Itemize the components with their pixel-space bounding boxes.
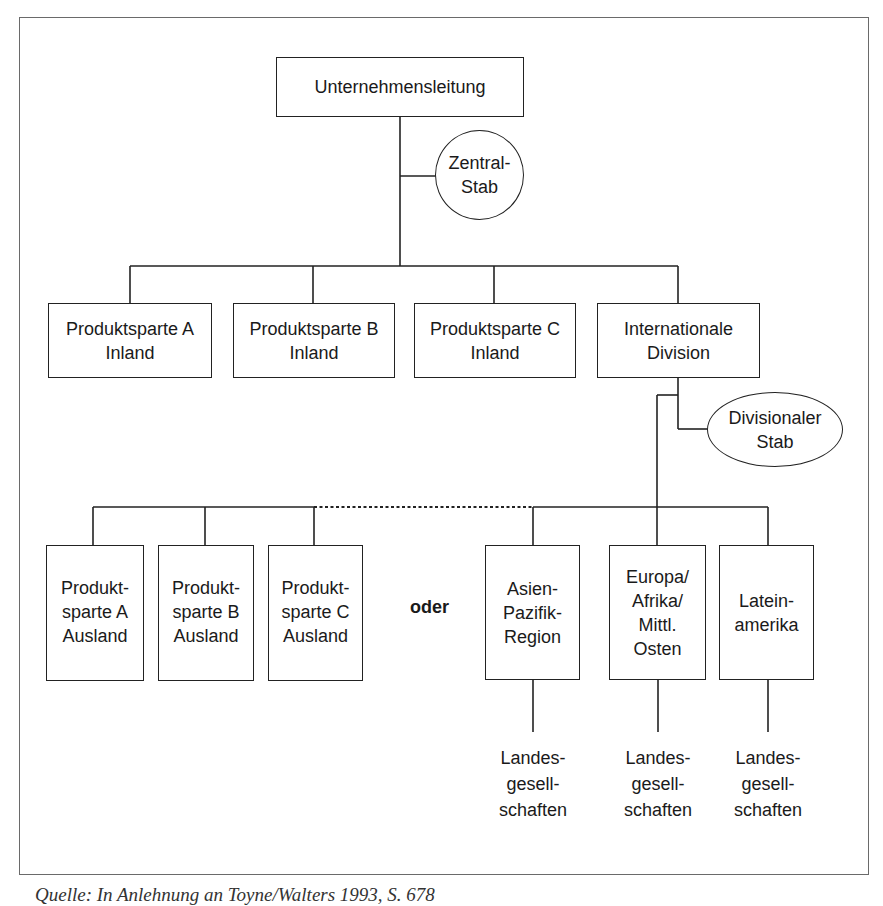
label-line: Landes-: [500, 745, 565, 771]
node-produktsparte-b-ausland: Produkt- sparte B Ausland: [158, 545, 254, 681]
label-line: gesell-: [631, 771, 684, 797]
node-produktsparte-a-ausland: Produkt- sparte A Ausland: [46, 545, 144, 681]
node-label: Region: [504, 625, 561, 649]
staff-label: Divisionaler: [728, 406, 821, 430]
node-produktsparte-c-inland: Produktsparte C Inland: [414, 303, 576, 378]
node-label: sparte A: [62, 600, 128, 624]
node-label: Ausland: [173, 624, 238, 648]
node-label: amerika: [734, 613, 798, 637]
node-label: Produktsparte C: [430, 317, 560, 341]
label-landesgesellschaften-asien: Landes- gesell- schaften: [483, 745, 583, 823]
node-label: Produkt-: [61, 576, 129, 600]
node-europa-afrika-mittl-osten: Europa/ Afrika/ Mittl. Osten: [609, 545, 706, 680]
node-label: sparte B: [172, 600, 239, 624]
node-label: Produkt-: [172, 576, 240, 600]
node-unternehmensleitung: Unternehmensleitung: [276, 57, 524, 117]
node-label: Europa/: [626, 565, 689, 589]
staff-divisionaler-stab: Divisionaler Stab: [707, 392, 843, 467]
label-line: schaften: [734, 797, 802, 823]
node-label: Inland: [289, 341, 338, 365]
label-line: Landes-: [625, 745, 690, 771]
node-label: Pazifik-: [503, 601, 562, 625]
node-label: Division: [647, 341, 710, 365]
staff-label: Stab: [756, 430, 793, 454]
label-line: gesell-: [506, 771, 559, 797]
node-label: Afrika/: [632, 589, 683, 613]
node-label: Osten: [633, 637, 681, 661]
node-label: Internationale: [624, 317, 733, 341]
node-label: Produktsparte A: [66, 317, 194, 341]
node-label: Mittl.: [639, 613, 677, 637]
node-produktsparte-b-inland: Produktsparte B Inland: [233, 303, 395, 378]
node-label: Ausland: [283, 624, 348, 648]
node-label: Latein-: [739, 589, 794, 613]
label-line: schaften: [499, 797, 567, 823]
label-line: Landes-: [735, 745, 800, 771]
node-label: Inland: [105, 341, 154, 365]
node-lateinamerika: Latein- amerika: [719, 545, 814, 680]
node-label: Produkt-: [281, 576, 349, 600]
source-caption: Quelle: In Anlehnung an Toyne/Walters 19…: [35, 884, 435, 906]
node-label: Asien-: [507, 577, 558, 601]
node-produktsparte-a-inland: Produktsparte A Inland: [48, 303, 212, 378]
label-landesgesellschaften-lateinamerika: Landes- gesell- schaften: [718, 745, 818, 823]
node-internationale-division: Internationale Division: [597, 303, 760, 378]
label-landesgesellschaften-europa: Landes- gesell- schaften: [608, 745, 708, 823]
node-label: Inland: [470, 341, 519, 365]
label-line: gesell-: [741, 771, 794, 797]
node-produktsparte-c-ausland: Produkt- sparte C Ausland: [268, 545, 363, 681]
label-line: schaften: [624, 797, 692, 823]
node-label: sparte C: [281, 600, 349, 624]
staff-label: Stab: [461, 175, 498, 199]
node-label: Ausland: [62, 624, 127, 648]
staff-zentral-stab: Zentral- Stab: [435, 130, 524, 220]
node-label: Produktsparte B: [249, 317, 378, 341]
node-label: Unternehmensleitung: [314, 75, 485, 99]
alternative-separator: oder: [410, 597, 449, 618]
staff-label: Zentral-: [448, 151, 510, 175]
node-asien-pazifik-region: Asien- Pazifik- Region: [485, 545, 580, 680]
